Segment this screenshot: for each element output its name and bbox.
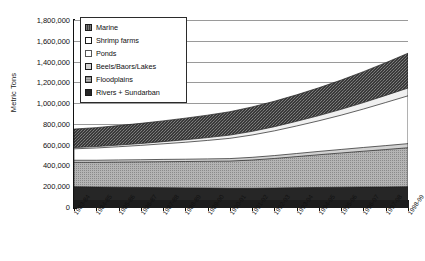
y-axis-tick-label: 400,000 bbox=[12, 161, 70, 170]
legend-item: Shrimp farms bbox=[85, 34, 182, 47]
y-axis-tick-labels: 0200,000400,000600,000800,0001,000,0001,… bbox=[8, 20, 70, 207]
y-axis-tick-label: 800,000 bbox=[12, 120, 70, 129]
y-axis-tick-label: 1,800,000 bbox=[12, 16, 70, 25]
legend-item: Floodplains bbox=[85, 73, 182, 86]
legend-swatch-icon bbox=[85, 24, 92, 31]
legend-label: Shrimp farms bbox=[96, 36, 139, 45]
legend-swatch-icon bbox=[85, 37, 92, 44]
legend-label: Rivers + Sundarban bbox=[96, 88, 160, 97]
legend-swatch-icon bbox=[85, 50, 92, 57]
legend-item: Rivers + Sundarban bbox=[85, 86, 182, 99]
y-axis-tick-label: 0 bbox=[12, 203, 70, 212]
legend-swatch-icon bbox=[85, 89, 92, 96]
legend-label: Floodplains bbox=[96, 75, 133, 84]
y-axis-tick-label: 1,200,000 bbox=[12, 78, 70, 87]
legend-swatch-icon bbox=[85, 76, 92, 83]
y-axis-tick-label: 1,400,000 bbox=[12, 58, 70, 67]
legend-label: Beels/Baors/Lakes bbox=[96, 62, 156, 71]
y-axis-tick-label: 600,000 bbox=[12, 141, 70, 150]
y-axis-tick-label: 1,600,000 bbox=[12, 37, 70, 46]
legend-label: Ponds bbox=[96, 49, 116, 58]
chart-legend: MarineShrimp farmsPondsBeels/Baors/Lakes… bbox=[80, 17, 187, 103]
legend-item: Beels/Baors/Lakes bbox=[85, 60, 182, 73]
legend-swatch-icon bbox=[85, 63, 92, 70]
y-axis-tick-label: 1,000,000 bbox=[12, 99, 70, 108]
legend-item: Marine bbox=[85, 21, 182, 34]
y-axis-tick-label: 200,000 bbox=[12, 182, 70, 191]
legend-label: Marine bbox=[96, 23, 118, 32]
legend-item: Ponds bbox=[85, 47, 182, 60]
